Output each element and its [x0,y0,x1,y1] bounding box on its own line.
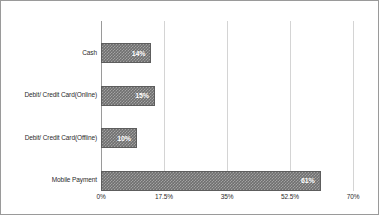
y-axis-label: Debit/ Credit Card(Online) [24,92,97,99]
x-axis-tick-label: 70% [347,194,360,201]
y-axis-label: Mobile Payment [52,177,97,184]
x-axis-tick-label: 52.5% [281,194,299,201]
x-axis-tick-label: 17.5% [155,194,173,201]
y-axis-labels: CashDebit/ Credit Card(Online)Debit/ Cre… [1,21,379,191]
y-axis-label: Debit/ Credit Card(Offline) [25,135,97,142]
x-axis-tick-labels: 0%17.5%35%52.5%70% [101,194,353,208]
chart-figure: 14%15%10%61% CashDebit/ Credit Card(Onli… [0,0,379,215]
y-axis-label: Cash [82,50,97,57]
x-axis-tick-label: 0% [96,194,105,201]
x-axis-tick-label: 35% [221,194,234,201]
